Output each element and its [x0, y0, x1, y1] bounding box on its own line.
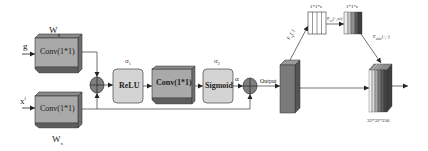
conv-gate-label: Conv(1*1)	[40, 48, 75, 56]
squeeze-dim-label: 1*1*c	[310, 4, 322, 9]
final-dim-label: 32*32*256	[367, 118, 390, 123]
attention-gate-diagram: Wg g Conv(1*1) xl Conv(1*1) Wx σ1 ReLU C…	[0, 0, 428, 151]
output-feature-block	[280, 60, 300, 113]
multiply-node	[243, 78, 257, 94]
excite-function-label: Fex(·,w)	[327, 16, 342, 23]
gate-signal-label: g	[23, 42, 28, 51]
excite-dim-label: 1*1*c	[346, 4, 358, 9]
recalibrated-feature-block	[369, 64, 392, 112]
skip-weight-label: Wx	[52, 135, 63, 146]
sigma1-label: σ1	[125, 58, 131, 66]
excitation-vector-block	[344, 12, 362, 34]
conv-mid-label: Conv(1*1)	[156, 79, 192, 87]
sigmoid-label: Sigmoid	[205, 82, 233, 90]
scale-function-label: Fscale(·,·)	[373, 34, 390, 41]
relu-label: ReLU	[119, 82, 139, 90]
conv-skip-label: Conv(1*1)	[40, 105, 75, 113]
add-node	[90, 77, 104, 93]
gate-weight-label: Wg	[49, 26, 60, 37]
skip-signal-label: xl	[20, 96, 26, 106]
squeeze-vector-block	[308, 12, 326, 34]
alpha-label: α	[235, 76, 239, 83]
sigma2-label: σ2	[214, 58, 220, 66]
output-label: Output	[260, 78, 277, 84]
